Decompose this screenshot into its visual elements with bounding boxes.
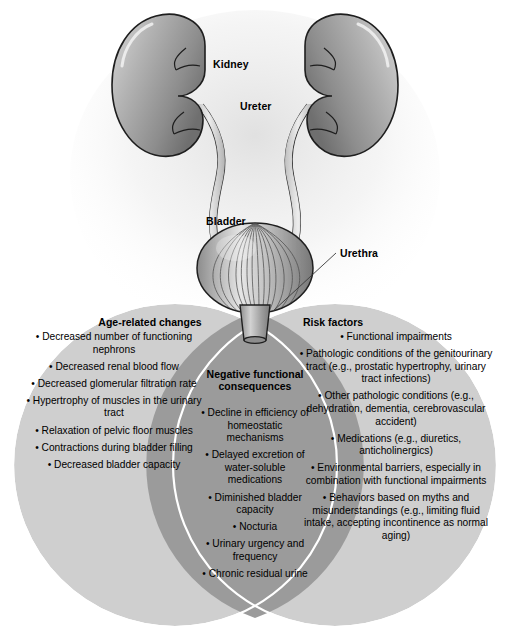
venn-left-heading: Age-related changes [80, 316, 220, 328]
venn-center-items: • Decline in efficiency of homeostatic m… [198, 407, 312, 581]
figure-canvas: Kidney Ureter Bladder Urethra Age-relate… [0, 0, 510, 642]
label-urethra: Urethra [340, 247, 378, 259]
venn-left-items: • Decreased number of functioning nephro… [16, 331, 212, 471]
label-bladder: Bladder [206, 215, 246, 227]
bullet-item: • Hypertrophy of muscles in the urinary … [16, 395, 212, 420]
bullet-item: • Chronic residual urine [198, 568, 312, 581]
bullet-item: • Relaxation of pelvic floor muscles [16, 425, 212, 438]
bullet-item: • Behaviors based on myths and misunders… [298, 492, 494, 542]
venn-right-heading: Risk factors [303, 316, 423, 328]
bullet-item: • Pathologic conditions of the genitouri… [298, 348, 494, 386]
bullet-item: • Urinary urgency and frequency [198, 538, 312, 563]
venn-center-heading: Negative functional consequences [203, 368, 307, 393]
bullet-item: • Functional impairments [298, 331, 494, 344]
label-kidney: Kidney [213, 58, 249, 70]
bullet-item: • Decreased bladder capacity [16, 459, 212, 472]
label-ureter: Ureter [240, 100, 272, 112]
bullet-item: • Diminished bladder capacity [198, 492, 312, 517]
bullet-item: • Nocturia [198, 521, 312, 534]
bullet-item: • Decreased renal blood flow [16, 361, 212, 374]
bullet-item: • Delayed excretion of water-soluble med… [198, 449, 312, 487]
bullet-item: • Decreased glomerular filtration rate [16, 378, 212, 391]
bullet-item: • Other pathologic conditions (e.g., deh… [298, 390, 494, 428]
bullet-item: • Contractions during bladder filling [16, 442, 212, 455]
bullet-item: • Decline in efficiency of homeostatic m… [198, 407, 312, 445]
bullet-item: • Medications (e.g., diuretics, antichol… [298, 433, 494, 458]
venn-right-items: • Functional impairments• Pathologic con… [298, 331, 494, 542]
bullet-item: • Environmental barriers, especially in … [298, 462, 494, 487]
urethra-shape [240, 305, 270, 340]
bullet-item: • Decreased number of functioning nephro… [16, 331, 212, 356]
